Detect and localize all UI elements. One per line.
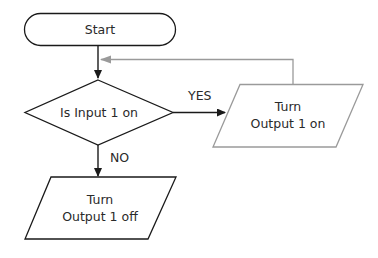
decision-label: Is Input 1 on — [25, 104, 173, 121]
no-edge-label: NO — [110, 150, 129, 165]
yes-edge-label: YES — [188, 88, 211, 103]
loop-back-connector — [101, 60, 293, 85]
output-off-label-line1: Turn — [38, 191, 162, 208]
output-on-label-line1: Turn — [226, 98, 350, 115]
output-off-label-line2: Output 1 off — [38, 208, 162, 225]
output-on-label: Turn Output 1 on — [226, 98, 350, 132]
output-off-label: Turn Output 1 off — [38, 191, 162, 225]
output-on-label-line2: Output 1 on — [226, 115, 350, 132]
start-label: Start — [24, 21, 176, 38]
